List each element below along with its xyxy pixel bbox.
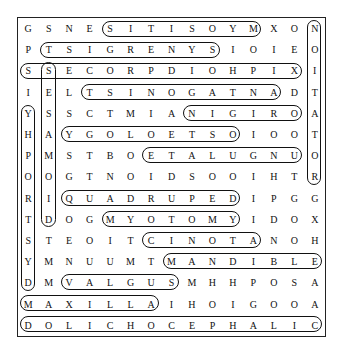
grid-cell[interactable]: T <box>141 251 161 272</box>
grid-cell[interactable]: G <box>18 18 38 39</box>
grid-cell[interactable]: O <box>202 294 222 315</box>
grid-cell[interactable]: M <box>120 251 140 272</box>
grid-cell[interactable]: B <box>100 145 120 166</box>
grid-cell[interactable]: G <box>284 188 304 209</box>
found-word-antagonist <box>81 84 281 100</box>
grid-cell[interactable]: P <box>18 39 38 60</box>
grid-cell[interactable]: O <box>264 272 284 293</box>
grid-cell[interactable]: I <box>243 124 263 145</box>
grid-cell[interactable]: H <box>305 230 325 251</box>
grid-cell[interactable]: T <box>100 103 120 124</box>
grid-cell[interactable]: S <box>38 18 58 39</box>
grid-cell[interactable]: O <box>202 166 222 187</box>
grid-cell[interactable]: N <box>264 230 284 251</box>
grid-cell[interactable]: S <box>284 272 304 293</box>
found-word-rotation <box>307 20 321 185</box>
grid-cell[interactable]: O <box>79 230 99 251</box>
grid-cell[interactable]: O <box>223 166 243 187</box>
grid-cell[interactable]: O <box>120 166 140 187</box>
grid-cell[interactable]: I <box>243 188 263 209</box>
word-search-puzzle: GSNESITISOYMXONPTSIGRENYSIOIEOSSECORPDIO… <box>17 17 326 337</box>
grid-cell[interactable]: A <box>161 103 181 124</box>
grid-cell[interactable]: X <box>305 209 325 230</box>
grid-cell[interactable]: O <box>243 39 263 60</box>
grid-cell[interactable]: X <box>264 18 284 39</box>
grid-cell[interactable]: A <box>305 294 325 315</box>
grid-cell[interactable]: L <box>59 82 79 103</box>
grid-cell[interactable]: G <box>305 188 325 209</box>
grid-cell[interactable]: S <box>59 145 79 166</box>
grid-cell[interactable]: D <box>284 82 304 103</box>
grid-cell[interactable]: E <box>59 230 79 251</box>
found-word-maxilla <box>20 295 159 311</box>
grid-cell[interactable]: I <box>161 294 181 315</box>
grid-cell[interactable]: O <box>264 294 284 315</box>
grid-cell[interactable]: H <box>223 272 243 293</box>
grid-cell[interactable]: O <box>264 124 284 145</box>
grid-cell[interactable]: T <box>79 145 99 166</box>
grid-cell[interactable]: A <box>305 272 325 293</box>
grid-cell[interactable]: D <box>264 209 284 230</box>
grid-cell[interactable]: T <box>120 230 140 251</box>
grid-cell[interactable]: O <box>59 209 79 230</box>
grid-cell[interactable]: D <box>161 166 181 187</box>
found-word-mandible <box>163 253 322 269</box>
found-word-dystrophy <box>21 105 35 291</box>
found-word-atonic <box>142 232 260 248</box>
grid-cell[interactable]: I <box>243 166 263 187</box>
grid-cell[interactable]: I <box>141 103 161 124</box>
grid-cell[interactable]: E <box>284 39 304 60</box>
grid-cell[interactable]: H <box>182 294 202 315</box>
grid-cell[interactable]: T <box>79 166 99 187</box>
grid-cell[interactable]: I <box>243 209 263 230</box>
grid-cell[interactable]: O <box>284 230 304 251</box>
grid-cell[interactable]: I <box>264 39 284 60</box>
found-word-myositis <box>102 21 261 37</box>
grid-cell[interactable]: I <box>223 39 243 60</box>
grid-cell[interactable]: M <box>38 272 58 293</box>
grid-cell[interactable]: P <box>243 272 263 293</box>
grid-cell[interactable]: O <box>284 18 304 39</box>
grid-cell[interactable]: U <box>79 251 99 272</box>
grid-cell[interactable]: T <box>284 166 304 187</box>
grid-cell[interactable]: G <box>59 166 79 187</box>
grid-cell[interactable]: P <box>264 188 284 209</box>
grid-cell[interactable]: E <box>79 18 99 39</box>
found-word-synergist <box>40 42 220 58</box>
found-word-osteology <box>61 126 241 142</box>
grid-cell[interactable]: N <box>100 166 120 187</box>
found-word-dolichocephalic <box>20 316 322 332</box>
grid-cell[interactable]: O <box>120 145 140 166</box>
grid-cell[interactable]: O <box>284 124 304 145</box>
found-word-sesamoid <box>41 62 55 227</box>
found-word-valgus <box>61 274 179 290</box>
grid-cell[interactable]: G <box>79 209 99 230</box>
grid-cell[interactable]: M <box>182 272 202 293</box>
grid-cell[interactable]: M <box>120 103 140 124</box>
grid-cell[interactable]: T <box>38 230 58 251</box>
grid-cell[interactable]: S <box>182 166 202 187</box>
grid-cell[interactable]: G <box>243 294 263 315</box>
grid-cell[interactable]: U <box>100 251 120 272</box>
found-word-xiphoidprocess <box>20 63 302 79</box>
grid-cell[interactable]: I <box>18 82 38 103</box>
found-word-origin <box>183 105 301 121</box>
grid-cell[interactable]: O <box>284 294 304 315</box>
found-word-quadruped <box>61 190 241 206</box>
grid-cell[interactable]: O <box>284 209 304 230</box>
grid-cell[interactable]: C <box>79 103 99 124</box>
grid-cell[interactable]: I <box>100 230 120 251</box>
grid-cell[interactable]: M <box>38 251 58 272</box>
found-word-ungulate <box>142 147 301 163</box>
grid-cell[interactable]: N <box>59 18 79 39</box>
grid-cell[interactable]: S <box>59 103 79 124</box>
found-word-myotomy <box>102 211 241 227</box>
grid-cell[interactable]: N <box>59 251 79 272</box>
grid-cell[interactable]: I <box>141 166 161 187</box>
grid-cell[interactable]: H <box>202 272 222 293</box>
grid-cell[interactable]: H <box>264 166 284 187</box>
grid-cell[interactable]: I <box>223 294 243 315</box>
